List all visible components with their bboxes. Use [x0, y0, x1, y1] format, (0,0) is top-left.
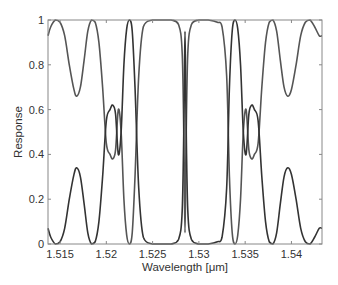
chart-background [0, 0, 338, 285]
y-axis-label: Response [12, 106, 24, 158]
y-tick-label: 0.8 [29, 59, 44, 71]
x-tick-label: 1.53 [188, 248, 209, 260]
x-tick-label: 1.54 [281, 248, 302, 260]
x-tick-label: 1.535 [231, 248, 259, 260]
x-tick-label: 1.515 [46, 248, 74, 260]
x-tick-label: 1.52 [96, 248, 117, 260]
y-tick-label: 0.4 [29, 148, 44, 160]
y-tick-label: 0.6 [29, 104, 44, 116]
y-tick-label: 1 [38, 14, 44, 26]
y-tick-label: 0 [38, 238, 44, 250]
x-axis-label: Wavelength [μm] [142, 261, 228, 273]
x-tick-label: 1.525 [139, 248, 167, 260]
response-chart: 1.5151.521.5251.531.5351.54 00.20.40.60.… [0, 0, 338, 285]
y-tick-label: 0.2 [29, 193, 44, 205]
